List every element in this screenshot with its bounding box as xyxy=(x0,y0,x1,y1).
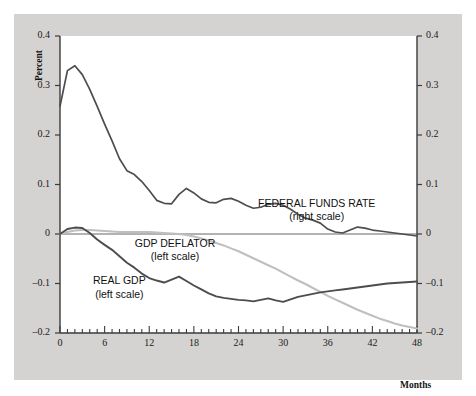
y-tick-label-right: 0.1 xyxy=(426,178,456,189)
y-tick-label-right: 0.4 xyxy=(426,29,456,40)
series-annotation-scale: (right scale) xyxy=(258,210,375,223)
y-tick-label-left: 0.1 xyxy=(20,178,50,189)
series-annotation-real-gdp: REAL GDP(left scale) xyxy=(93,274,146,300)
x-tick-label: 0 xyxy=(45,337,75,348)
x-tick-label: 6 xyxy=(90,337,120,348)
chart-figure: Percent Percentage points Months –0.2–0.… xyxy=(0,0,476,396)
y-tick-label-left: –0.1 xyxy=(20,277,50,288)
series-annotation-title: GDP DEFLATOR xyxy=(135,237,216,250)
y-tick-label-left: 0.2 xyxy=(20,128,50,139)
series-annotation-title: FEDERAL FUNDS RATE xyxy=(258,197,375,210)
y-tick-label-left: 0 xyxy=(20,227,50,238)
y-tick-label-left: 0.3 xyxy=(20,79,50,90)
y-tick-label-right: 0.2 xyxy=(426,128,456,139)
x-tick-label: 48 xyxy=(402,337,432,348)
series-annotation-scale: (left scale) xyxy=(135,250,216,263)
series-annotation-scale: (left scale) xyxy=(93,288,146,301)
y-tick-label-right: –0.1 xyxy=(426,277,456,288)
x-tick-label: 24 xyxy=(224,337,254,348)
y-tick-label-left: 0.4 xyxy=(20,29,50,40)
y-tick-label-left: –0.2 xyxy=(20,326,50,337)
x-tick-label: 36 xyxy=(313,337,343,348)
series-annotation-federal-funds-rate: FEDERAL FUNDS RATE(right scale) xyxy=(258,197,375,223)
x-tick-label: 18 xyxy=(179,337,209,348)
x-tick-label: 30 xyxy=(268,337,298,348)
x-axis-title: Months xyxy=(400,380,431,390)
y-tick-label-right: 0.3 xyxy=(426,79,456,90)
series-annotation-gdp-deflator: GDP DEFLATOR(left scale) xyxy=(135,237,216,263)
chart-panel: Percent Percentage points Months –0.2–0.… xyxy=(14,14,462,380)
y-tick-label-right: 0 xyxy=(426,227,456,238)
x-tick-label: 42 xyxy=(357,337,387,348)
y-tick-label-right: –0.2 xyxy=(426,326,456,337)
x-tick-label: 12 xyxy=(134,337,164,348)
series-annotation-title: REAL GDP xyxy=(93,274,146,287)
plot-canvas xyxy=(14,14,462,380)
